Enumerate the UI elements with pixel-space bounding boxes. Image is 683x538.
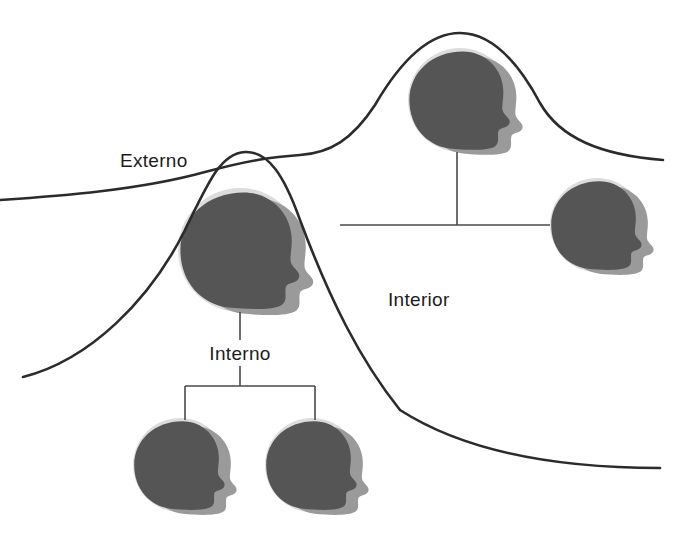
label-externo: Externo [120, 150, 188, 171]
head-icon-bottom-right [265, 418, 369, 515]
diagram-svg: Externo Interior Interno [0, 0, 683, 538]
head-icon-bottom-left [133, 418, 237, 515]
label-interno: Interno [209, 343, 270, 364]
label-interior: Interior [388, 289, 450, 310]
inner-curve [0, 33, 663, 200]
head-icon-top [408, 48, 523, 155]
head-icon-right [550, 178, 654, 275]
diagram-canvas: Externo Interior Interno [0, 0, 683, 538]
head-icon-main [178, 188, 313, 315]
